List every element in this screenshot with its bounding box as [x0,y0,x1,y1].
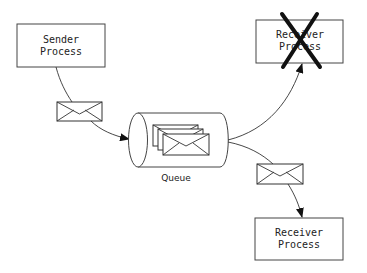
receiver-bottom-label-line1: Receiver [275,227,323,238]
edge-queue-to-envelope [228,142,273,164]
receiver-process-bottom-node: Receiver Process [255,218,343,260]
edge-envelope-to-queue [91,121,129,139]
edge-sender-to-envelope [56,67,72,102]
sender-label-line1: Sender [43,34,79,45]
queue-node: Queue [129,113,229,183]
message-queue-diagram: Sender Process Queue [0,0,367,273]
queue-label: Queue [161,173,191,183]
envelope-icon [257,164,303,184]
receiver-process-top-node: Receiver Process [256,14,343,67]
edge-queue-to-receiver-top [228,64,302,140]
sender-process-node: Sender Process [17,24,105,67]
queued-message-envelope-icon [163,134,209,155]
sender-label-line2: Process [40,46,82,57]
envelope-icon [57,102,102,121]
receiver-bottom-label-line2: Process [278,239,320,250]
edge-envelope-to-receiver-bottom [288,184,302,217]
